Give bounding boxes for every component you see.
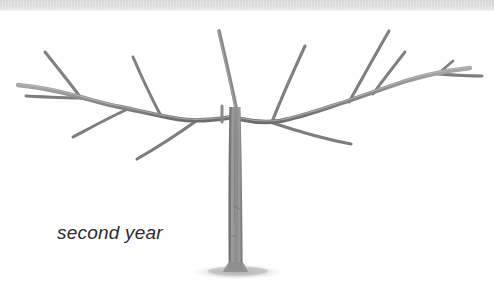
left-scaffold-branch-highlight bbox=[18, 84, 233, 119]
right-upward-shoot-1 bbox=[272, 46, 305, 122]
right-lower-branch-2 bbox=[438, 74, 482, 76]
figure-canvas: second year bbox=[0, 0, 494, 287]
figure-caption: second year bbox=[57, 221, 163, 245]
left-scaffold-group bbox=[18, 52, 233, 159]
right-scaffold-group bbox=[240, 31, 482, 144]
left-upward-shoot-1 bbox=[133, 57, 161, 116]
right-lower-branch-1 bbox=[273, 123, 351, 144]
left-scaffold-branch bbox=[18, 85, 233, 120]
trunk-base-flare bbox=[223, 262, 248, 272]
left-lower-branch-1 bbox=[137, 121, 196, 159]
central-leader-highlight bbox=[218, 31, 236, 112]
left-lower-branch-2 bbox=[73, 108, 130, 137]
